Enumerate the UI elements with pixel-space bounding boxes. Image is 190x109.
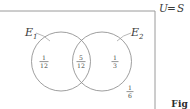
region-e2-only-denominator: 3	[113, 62, 117, 69]
region-value-outside: 1 6	[127, 84, 134, 99]
sample-space-symbol: S	[177, 2, 184, 14]
region-e1-only-denominator: 12	[40, 62, 48, 69]
figure-caption: Fig	[171, 99, 188, 109]
venn-diagram-canvas: E 1 E 2 U = S 1 12 5 12 1 3	[0, 0, 190, 109]
region-value-e1-only: 1 12	[40, 54, 49, 69]
set-label-e2-subscript: 2	[138, 33, 144, 41]
set-label-e1-name: E	[24, 26, 33, 39]
set-label-e2: E 2	[130, 26, 144, 41]
universal-set-label: U = S	[159, 2, 184, 14]
set-label-e2-name: E	[130, 26, 139, 39]
region-intersection-numerator: 5	[79, 54, 83, 61]
region-value-e2-only: 1 3	[112, 54, 119, 69]
region-outside-denominator: 6	[128, 92, 132, 99]
equals-sign: =	[167, 2, 176, 14]
leader-line-e1	[36, 33, 50, 41]
region-intersection-denominator: 12	[77, 62, 85, 69]
region-e2-only-numerator: 1	[113, 54, 117, 61]
set-label-e1-subscript: 1	[33, 33, 37, 41]
region-outside-numerator: 1	[128, 84, 132, 91]
venn-diagram-figure: E 1 E 2 U = S 1 12 5 12 1 3	[0, 0, 190, 109]
set-label-e1: E 1	[24, 26, 37, 41]
region-e1-only-numerator: 1	[42, 54, 46, 61]
region-value-intersection: 5 12	[77, 54, 86, 69]
